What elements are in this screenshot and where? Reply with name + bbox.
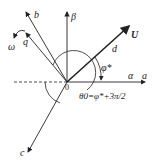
label-phi: φ* [101,63,112,73]
label-theta: θ0=φ*+3π/2 [79,92,126,101]
d-axis-u-vector [67,26,129,82]
theta-arc-lower [45,82,60,103]
label-d: d [112,44,117,54]
label-u: U [131,30,138,40]
label-c: c [20,148,24,158]
q-axis [26,33,67,82]
label-origin: 0 [65,84,69,92]
label-a: a [142,71,147,81]
theta-arc [53,50,96,90]
b-axis [26,12,67,82]
label-alpha: α [128,71,133,81]
label-beta: β [71,12,76,22]
phasor-diagram [0,0,153,165]
label-b: b [34,10,39,20]
label-q: q [23,37,28,47]
label-omega: ω [8,42,15,52]
